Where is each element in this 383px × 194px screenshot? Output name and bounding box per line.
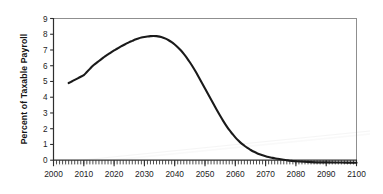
- y-axis-title: Percent of Taxable Payroll: [19, 34, 29, 145]
- x-tick-label-2010: 2010: [74, 169, 93, 179]
- x-tick-label-2000: 2000: [44, 169, 63, 179]
- y-axis-title-group: Percent of Taxable Payroll: [19, 34, 29, 145]
- x-tick-label-2020: 2020: [105, 169, 124, 179]
- y-tick-label-4: 4: [43, 93, 48, 102]
- x-tick-label-2030: 2030: [135, 169, 154, 179]
- y-tick-label-3: 3: [43, 109, 48, 118]
- y-tick-label-2: 2: [43, 125, 48, 134]
- x-tick-label-2100: 2100: [347, 169, 366, 179]
- x-tick-label-2080: 2080: [287, 169, 306, 179]
- y-tick-label-5: 5: [43, 77, 48, 86]
- chart-container: 0123456789 20002010202020302040205020602…: [0, 0, 383, 194]
- y-tick-label-7: 7: [43, 46, 48, 55]
- x-tick-label-2040: 2040: [165, 169, 184, 179]
- x-axis-tick-labels: 2000201020202030204020502060207020802090…: [44, 169, 366, 179]
- y-tick-label-6: 6: [43, 62, 48, 71]
- y-tick-label-1: 1: [43, 140, 48, 149]
- y-tick-label-0: 0: [43, 156, 48, 165]
- y-tick-label-9: 9: [43, 15, 48, 24]
- x-tick-label-2060: 2060: [226, 169, 245, 179]
- percent-of-taxable-payroll-line-chart: 0123456789 20002010202020302040205020602…: [0, 0, 383, 194]
- y-tick-label-8: 8: [43, 30, 48, 39]
- x-tick-label-2070: 2070: [256, 169, 275, 179]
- x-tick-label-2090: 2090: [317, 169, 336, 179]
- x-tick-label-2050: 2050: [196, 169, 215, 179]
